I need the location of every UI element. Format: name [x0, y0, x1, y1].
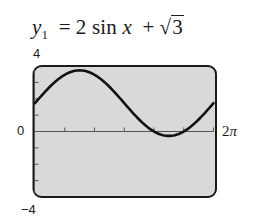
calculator-screen-plot	[0, 0, 254, 224]
